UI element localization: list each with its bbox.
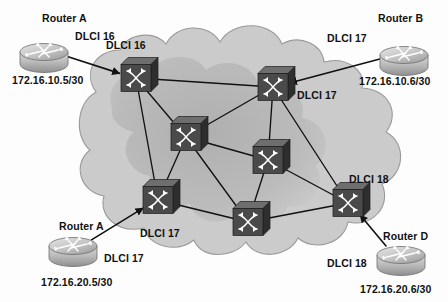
switch-sw[interactable] [143, 180, 180, 214]
switch-mid-right[interactable] [253, 140, 290, 174]
dlci-16-switch-label: DLCI 16 [106, 40, 146, 51]
diagram-canvas: Router ADLCI 16172.16.10.5/30Router BDLC… [0, 0, 448, 302]
switch-mid-left[interactable] [171, 117, 208, 151]
router-a-bottom-name-label: Router A [59, 221, 104, 232]
switch-se[interactable] [333, 183, 370, 217]
router-d-bottom-address-label: 172.16.20.6/30 [360, 284, 431, 295]
router-b-top-address-label: 172.16.10.6/30 [359, 76, 430, 87]
router-b-top[interactable] [380, 45, 428, 75]
router-a-top-name-label: Router A [42, 13, 87, 24]
router-a-bottom[interactable] [49, 236, 97, 266]
dlci-17-switch-ne-label: DLCI 17 [297, 90, 337, 101]
dlci-18-switch-se-label: DLCI 18 [349, 174, 389, 185]
router-d-bottom-name-label: Router D [383, 231, 428, 242]
router-a-bottom-address-label: 172.16.20.5/30 [41, 277, 112, 288]
router-d-bottom-dlci-label: DLCI 18 [327, 258, 367, 269]
router-a-top[interactable] [20, 42, 68, 72]
router-d-bottom[interactable] [377, 245, 425, 275]
switch-nw[interactable] [121, 58, 158, 92]
dlci-17-switch-sw-label: DLCI 17 [140, 228, 180, 239]
router-b-top-dlci-label: DLCI 17 [327, 33, 367, 44]
router-b-top-name-label: Router B [378, 13, 423, 24]
network-diagram [0, 0, 448, 302]
switch-s[interactable] [233, 202, 270, 236]
router-a-bottom-dlci-label: DLCI 17 [104, 253, 144, 264]
router-a-top-address-label: 172.16.10.5/30 [12, 75, 83, 86]
switch-ne[interactable] [258, 67, 295, 101]
